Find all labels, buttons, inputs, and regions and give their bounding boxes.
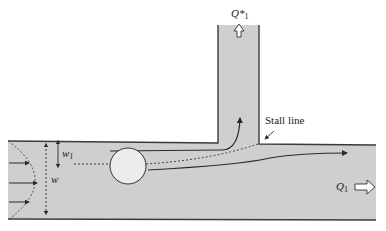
fluid-region [8, 25, 376, 220]
stall-line-pointer [265, 131, 274, 139]
channel-width-label: w [51, 173, 59, 185]
main-channel-top-wall [8, 25, 218, 143]
particle [110, 148, 146, 184]
branch-right-wall [259, 25, 376, 145]
stall-line-label: Stall line [265, 114, 305, 126]
branch-outlet-label: Q*1 [231, 7, 248, 21]
bifurcation-diagram: w w1 Q*1 Stall line Q1 [0, 0, 386, 231]
